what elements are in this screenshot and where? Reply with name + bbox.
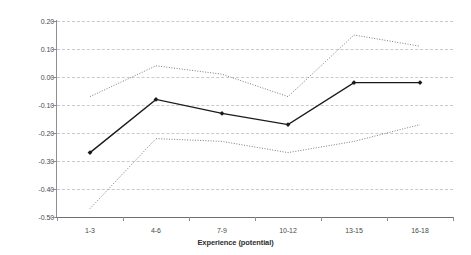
- series-line: [90, 35, 420, 97]
- data-point-marker: [418, 80, 423, 85]
- series-line: [90, 83, 420, 153]
- series-layer: [0, 0, 471, 255]
- data-point-marker: [220, 111, 225, 116]
- series-line: [90, 125, 420, 209]
- chart-container: 0.200.100.00-0.10-0.20-0.30-0.40-0.50 1-…: [0, 0, 471, 255]
